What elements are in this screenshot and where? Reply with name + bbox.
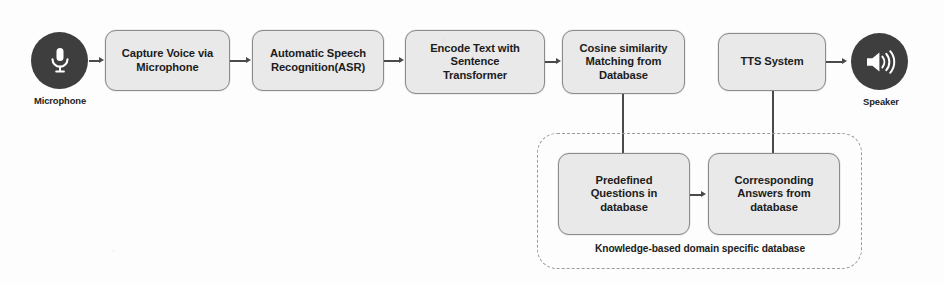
flowchart-canvas: Microphone Capture Voice via Microphone …	[0, 0, 944, 285]
node-corresponding-answers[interactable]: Corresponding Answers from database	[708, 153, 840, 235]
node-encode-text-label: Encode Text with Sentence Transformer	[430, 42, 520, 83]
arrowhead-capture-to-asr	[246, 57, 251, 63]
node-cosine-matching-label: Cosine similarity Matching from Database	[580, 42, 668, 83]
arrowhead-mic-to-capture	[99, 57, 104, 63]
arrowhead-encode-to-cosine	[556, 58, 561, 64]
connector-asr-to-encode	[384, 60, 400, 62]
arrowhead-asr-to-encode	[399, 57, 404, 63]
microphone-label: Microphone	[14, 95, 106, 106]
arrowhead-tts-to-speaker	[842, 58, 847, 64]
node-tts-system[interactable]: TTS System	[718, 33, 826, 91]
node-asr-label: Automatic Speech Recognition(ASR)	[270, 47, 366, 74]
connector-tts-to-speaker	[826, 61, 843, 63]
node-cosine-matching[interactable]: Cosine similarity Matching from Database	[562, 30, 685, 94]
knowledge-database-caption: Knowledge-based domain specific database	[545, 243, 855, 254]
node-encode-text[interactable]: Encode Text with Sentence Transformer	[405, 30, 545, 94]
node-corresponding-answers-label: Corresponding Answers from database	[735, 174, 814, 215]
node-predefined-questions-label: Predefined Questions in database	[591, 174, 658, 215]
speaker-icon	[851, 33, 908, 90]
node-tts-system-label: TTS System	[740, 55, 803, 69]
connector-capture-to-asr	[230, 60, 247, 62]
node-predefined-questions[interactable]: Predefined Questions in database	[558, 153, 690, 235]
node-capture-voice-label: Capture Voice via Microphone	[122, 47, 213, 74]
node-asr[interactable]: Automatic Speech Recognition(ASR)	[252, 30, 384, 91]
speaker-label: Speaker	[835, 96, 927, 107]
node-capture-voice[interactable]: Capture Voice via Microphone	[105, 30, 230, 91]
arrowhead-questions-to-answers	[701, 191, 706, 197]
microphone-icon	[31, 32, 88, 89]
